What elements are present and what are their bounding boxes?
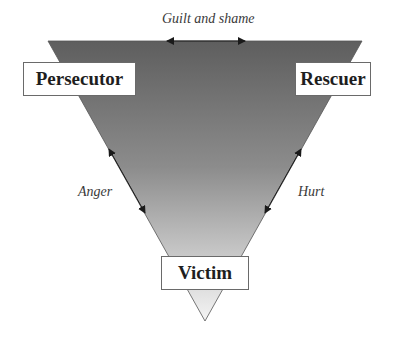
hurt-label: Hurt: [298, 184, 324, 200]
persecutor-label: Persecutor: [36, 68, 124, 90]
persecutor-box: Persecutor: [23, 62, 136, 96]
anger-label: Anger: [78, 184, 112, 200]
rescuer-box: Rescuer: [295, 62, 371, 96]
rescuer-label: Rescuer: [300, 68, 365, 90]
victim-box: Victim: [161, 256, 249, 290]
victim-label: Victim: [178, 262, 232, 284]
guilt-shame-label: Guilt and shame: [162, 11, 255, 27]
